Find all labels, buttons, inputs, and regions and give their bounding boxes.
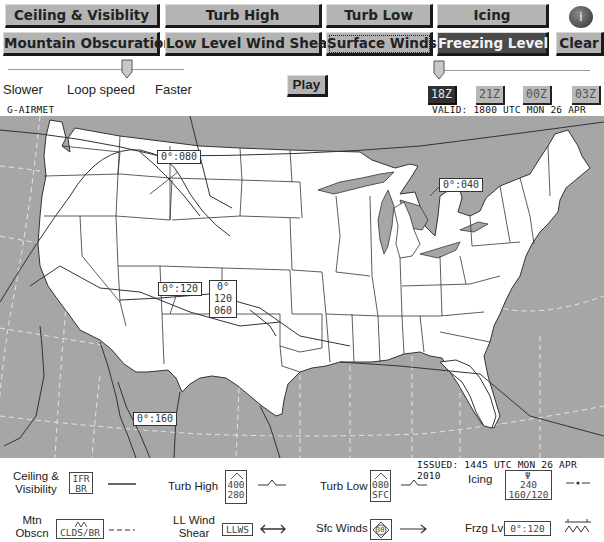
loop-speed-thumb[interactable]	[121, 59, 133, 79]
legend-label-turb-high: Turb High	[168, 480, 218, 493]
mountain-obscuration-button[interactable]: Mountain Obscuration	[3, 32, 160, 56]
double-arrow-icon	[259, 524, 287, 534]
legend-box-turb-low: 080SFC	[370, 470, 391, 502]
freezing-level-line: 0°	[214, 281, 232, 293]
product-title: G-AIRMET	[7, 104, 54, 115]
time-slider-track[interactable]	[438, 70, 590, 71]
legend-label-ceiling-visibility: Ceiling & Visibility	[10, 470, 62, 496]
airmet-map[interactable]: 0°:080 0°:040 0°:120 0° 120 060 0°:160	[0, 116, 604, 458]
freezing-level-line: 120	[214, 293, 232, 305]
mountain-icon	[75, 521, 87, 528]
dash-dot-line-icon	[566, 480, 590, 486]
turbulence-line-icon	[401, 478, 427, 488]
legend-box-sfc-winds: 30	[370, 519, 392, 540]
legend-label-sfc-winds: Sfc Winds	[316, 522, 368, 535]
legend-label-ll-wind-shear: LL Wind Shear	[172, 514, 216, 540]
turbulence-icon	[231, 472, 243, 480]
time-button-21z[interactable]: 21Z	[476, 86, 505, 105]
clear-button[interactable]: Clear	[556, 32, 604, 56]
ceiling-visibility-button[interactable]: Ceiling & Visiblity	[5, 4, 160, 28]
icing-button[interactable]: Icing	[437, 4, 549, 28]
freezing-level-line: 060	[214, 305, 232, 317]
freezing-level-label-080[interactable]: 0°:080	[157, 150, 201, 164]
legend-label-turb-low: Turb Low	[320, 480, 368, 493]
legend-box-ceiling-visibility: IFRBR	[69, 472, 93, 494]
info-help-button[interactable]: i	[569, 6, 593, 28]
info-icon: i	[579, 10, 582, 24]
legend-box-mtn-obscn: CLDS/BR	[56, 519, 104, 539]
legend-label-icing: Icing	[468, 473, 492, 486]
time-slider-thumb[interactable]	[433, 60, 445, 80]
freezing-level-line-icon	[565, 518, 591, 536]
legend-box-turb-high: 400280	[225, 470, 247, 504]
slower-label: Slower	[3, 82, 43, 97]
loop-speed-label: Loop speed	[67, 82, 135, 97]
legend-label-mtn-obscn: Mtn Obscn	[14, 514, 50, 540]
icing-icon: Ψ	[525, 471, 530, 481]
freezing-level-button[interactable]: Freezing Level	[437, 32, 549, 56]
faster-label: Faster	[155, 82, 192, 97]
freezing-level-label-120-060[interactable]: 0° 120 060	[209, 280, 237, 318]
low-level-wind-shear-button[interactable]: Low Level Wind Shear	[165, 32, 322, 56]
time-button-18z[interactable]: 18Z	[428, 86, 457, 105]
turb-high-button[interactable]: Turb High	[165, 4, 322, 28]
solid-line-icon	[108, 482, 136, 486]
loop-speed-track[interactable]	[8, 69, 184, 70]
legend-box-icing: Ψ 240160/120	[505, 470, 552, 500]
turbulence-line-icon	[258, 478, 286, 488]
surface-winds-button[interactable]: Surface Winds	[326, 32, 433, 56]
play-button[interactable]: Play	[287, 75, 328, 97]
legend-label-frzg-lvl: Frzg Lvl	[465, 522, 506, 535]
arrow-line-icon	[400, 524, 428, 534]
us-map-graphic	[0, 116, 604, 458]
legend-box-frzg-lvl: 0°:120	[504, 521, 551, 536]
legend-box-ll-wind-shear: LLWS	[222, 523, 253, 536]
freezing-level-label-160[interactable]: 0°:160	[133, 412, 177, 426]
legend: Ceiling & Visibility IFRBR Turb High 400…	[0, 458, 604, 542]
dashed-line-icon	[109, 528, 135, 532]
freezing-level-label-040[interactable]: 0°:040	[439, 178, 483, 192]
time-button-00z[interactable]: 00Z	[523, 86, 552, 105]
turbulence-icon	[375, 472, 387, 480]
time-button-03z[interactable]: 03Z	[572, 86, 601, 105]
turb-low-button[interactable]: Turb Low	[326, 4, 433, 28]
freezing-level-label-120[interactable]: 0°:120	[158, 282, 202, 296]
